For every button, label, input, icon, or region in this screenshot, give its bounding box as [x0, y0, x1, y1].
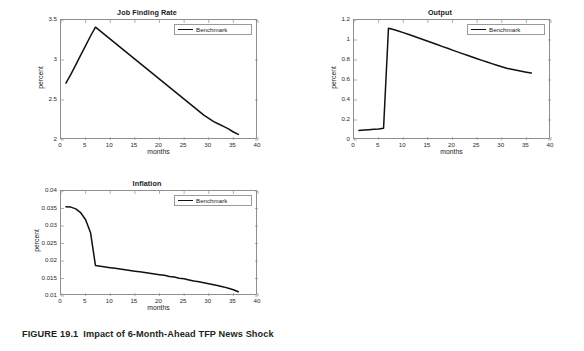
xtick-label: 5: [83, 298, 86, 304]
xaxis-label-job-finding-rate: months: [147, 148, 169, 155]
series-line-benchmark: [66, 207, 238, 292]
legend-inflation[interactable]: Benchmark: [174, 195, 252, 206]
ytick-label: 0.035: [24, 204, 57, 210]
series-line-benchmark: [66, 27, 238, 134]
xtick-label: 20: [448, 142, 455, 148]
panel-title-job-finding-rate: Job Finding Rate: [22, 8, 272, 17]
ytick-label: 0.02: [24, 257, 57, 263]
xtick-label: 0: [58, 142, 61, 148]
legend-line-swatch: [471, 29, 486, 30]
xtick-label: 0: [351, 142, 354, 148]
panel-output: Output percent months Benchmark 00.20.40…: [315, 6, 565, 156]
ytick-label: 3.5: [24, 16, 57, 22]
figure-canvas: Job Finding Rate percent months Benchmar…: [0, 0, 584, 351]
ytick-label: 0.025: [24, 239, 57, 245]
legend-label-benchmark: Benchmark: [489, 26, 520, 33]
xtick-label: 35: [229, 298, 236, 304]
plot-line-inflation: [61, 191, 258, 296]
xaxis-label-inflation: months: [147, 304, 169, 311]
figure-caption: FIGURE 19.1Impact of 6-Month-Ahead TFP N…: [22, 329, 274, 339]
xtick-label: 30: [497, 142, 504, 148]
legend-label-benchmark: Benchmark: [196, 197, 227, 204]
ytick-label: 0.03: [24, 222, 57, 228]
xtick-label: 40: [254, 298, 261, 304]
ytick-label: 1.2: [317, 16, 350, 22]
plot-line-output: [354, 20, 551, 140]
plot-area-output: [353, 19, 550, 139]
legend-output[interactable]: Benchmark: [467, 24, 545, 35]
xtick-label: 5: [376, 142, 379, 148]
ytick-label: 1: [317, 36, 350, 42]
xtick-label: 20: [155, 298, 162, 304]
xtick-label: 35: [229, 142, 236, 148]
ytick-label: 2.5: [24, 96, 57, 102]
ytick-label: 0.04: [24, 187, 57, 193]
panel-job-finding-rate: Job Finding Rate percent months Benchmar…: [22, 6, 272, 156]
series-line-benchmark: [359, 28, 531, 130]
xtick-label: 25: [180, 298, 187, 304]
figure-caption-text: Impact of 6-Month-Ahead TFP News Shock: [83, 329, 273, 339]
plot-area-job-finding-rate: [60, 19, 257, 139]
xtick-label: 35: [522, 142, 529, 148]
ytick-label: 0: [317, 136, 350, 142]
panel-title-inflation: Inflation: [22, 179, 272, 188]
figure-caption-number: FIGURE 19.1: [22, 329, 78, 339]
xtick-label: 30: [204, 298, 211, 304]
legend-line-swatch: [178, 29, 193, 30]
ytick-label: 2: [24, 136, 57, 142]
xtick-label: 5: [83, 142, 86, 148]
xtick-label: 15: [130, 298, 137, 304]
ytick-label: 0.01: [24, 292, 57, 298]
xtick-label: 15: [130, 142, 137, 148]
xtick-label: 30: [204, 142, 211, 148]
panel-title-output: Output: [315, 8, 565, 17]
xtick-label: 20: [155, 142, 162, 148]
xtick-label: 40: [254, 142, 261, 148]
xtick-label: 15: [423, 142, 430, 148]
xtick-label: 10: [106, 298, 113, 304]
xtick-label: 0: [58, 298, 61, 304]
legend-job-finding-rate[interactable]: Benchmark: [174, 24, 252, 35]
ytick-label: 0.015: [24, 274, 57, 280]
xaxis-label-output: months: [440, 148, 462, 155]
ytick-label: 0.8: [317, 56, 350, 62]
ytick-label: 3: [24, 56, 57, 62]
xtick-label: 25: [473, 142, 480, 148]
ytick-label: 0.2: [317, 116, 350, 122]
xtick-label: 40: [547, 142, 554, 148]
plot-line-job-finding-rate: [61, 20, 258, 140]
xtick-label: 10: [399, 142, 406, 148]
legend-line-swatch: [178, 200, 193, 201]
ytick-label: 0.4: [317, 96, 350, 102]
legend-label-benchmark: Benchmark: [196, 26, 227, 33]
yaxis-label-job-finding-rate: percent: [37, 58, 44, 98]
panel-inflation: Inflation percent months Benchmark 0.010…: [22, 177, 272, 327]
xtick-label: 25: [180, 142, 187, 148]
ytick-label: 0.6: [317, 76, 350, 82]
xtick-label: 10: [106, 142, 113, 148]
